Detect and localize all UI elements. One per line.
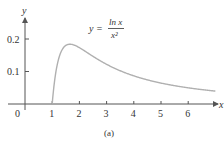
x-tick-label: 4 (131, 108, 136, 119)
equation-denominator: x² (110, 30, 118, 40)
equation-label: y = ln x x² (88, 17, 124, 40)
chart: 123456 0.10.2 x y 0 y = ln x x² (a) (0, 0, 224, 141)
x-axis-label: x (218, 99, 224, 110)
equation-lhs: y = (88, 23, 103, 34)
caption: (a) (104, 128, 114, 138)
origin-label: 0 (15, 108, 20, 119)
curve-ln-x-over-x2 (52, 44, 215, 104)
y-tick-label: 0.2 (7, 34, 20, 45)
equation-numerator: ln x (109, 17, 122, 27)
x-tick-label: 3 (104, 108, 109, 119)
x-tick-label: 2 (76, 108, 81, 119)
y-tick-label: 0.1 (7, 66, 20, 77)
y-ticks: 0.10.2 (7, 34, 29, 78)
y-axis-label: y (21, 5, 27, 16)
x-tick-label: 1 (49, 108, 54, 119)
x-tick-label: 5 (158, 108, 163, 119)
x-tick-label: 6 (185, 108, 190, 119)
